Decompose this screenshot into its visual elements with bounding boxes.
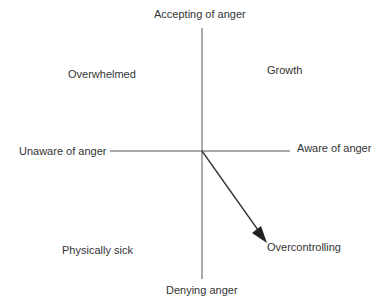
axis-label-right: Aware of anger [297,142,371,155]
arrow-shaft [202,151,258,230]
quadrant-label-bottom-left: Physically sick [62,244,133,257]
axis-label-top: Accepting of anger [154,8,246,21]
anger-quadrant-diagram: Accepting of anger Denying anger Unaware… [0,0,392,305]
axis-label-bottom: Denying anger [166,284,238,297]
quadrant-label-top-right: Growth [267,64,302,77]
axis-label-left: Unaware of anger [19,145,106,158]
quadrant-label-top-left: Overwhelmed [68,68,136,81]
quadrant-label-bottom-right: Overcontrolling [267,241,341,254]
arrow-head-icon [252,226,267,243]
